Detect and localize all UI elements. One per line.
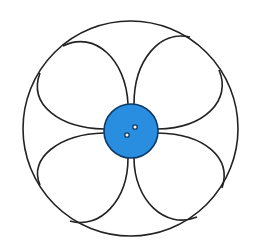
flower-diagram	[0, 0, 260, 243]
center-disc	[104, 104, 158, 158]
hole-2	[133, 125, 137, 129]
hole-1	[125, 133, 129, 137]
